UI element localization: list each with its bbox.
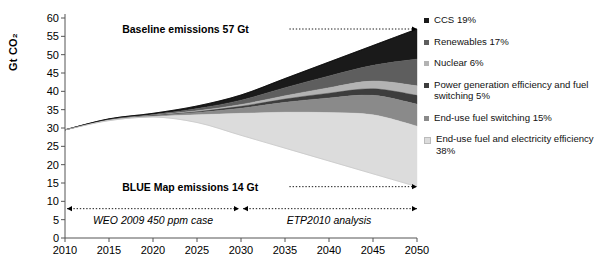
legend-label: End-use fuel switching 15% (434, 112, 552, 124)
y-tick-50: 50 (25, 49, 59, 60)
legend-swatch-icon (424, 137, 431, 144)
y-tick-45: 45 (25, 68, 59, 79)
y-tick-35: 35 (25, 104, 59, 115)
weo-period-label: WEO 2009 450 ppm case (93, 214, 213, 226)
legend-item-end-use-fuel-switching[interactable]: End-use fuel switching 15% (424, 112, 600, 124)
legend-item-end-use-efficiency[interactable]: End-use fuel and electricity efficiency … (424, 133, 600, 156)
y-tick-25: 25 (25, 141, 59, 152)
legend-label: CCS 19% (434, 14, 476, 26)
x-tick-2045: 2045 (351, 244, 395, 256)
baseline-annotation-arrow (289, 26, 417, 31)
y-tick-40: 40 (25, 86, 59, 97)
bluemap-annotation: BLUE Map emissions 14 Gt (122, 181, 258, 193)
y-axis-title: Gt CO₂ (7, 17, 19, 87)
x-tick-2035: 2035 (263, 244, 307, 256)
y-tick-60: 60 (25, 13, 59, 24)
x-tick-2040: 2040 (307, 244, 351, 256)
legend-item-renewables[interactable]: Renewables 17% (424, 36, 600, 48)
legend-swatch-icon (424, 61, 429, 66)
legend-item-ccs[interactable]: CCS 19% (424, 14, 600, 26)
bluemap-annotation-label: BLUE Map emissions 14 Gt (122, 181, 258, 193)
bluemap-annotation-arrow (289, 184, 417, 189)
x-tick-2025: 2025 (175, 244, 219, 256)
etp-period-arrow (243, 206, 417, 211)
weo-period-arrow (67, 206, 239, 211)
baseline-annotation-label: Baseline emissions 57 Gt (122, 23, 249, 35)
chart-legend: CCS 19%Renewables 17%Nuclear 6%Power gen… (424, 14, 600, 166)
x-tick-2020: 2020 (131, 244, 175, 256)
y-tick-15: 15 (25, 178, 59, 189)
legend-label: Power generation efficiency and fuel swi… (434, 79, 600, 102)
legend-item-nuclear[interactable]: Nuclear 6% (424, 57, 600, 69)
baseline-annotation: Baseline emissions 57 Gt (122, 23, 249, 35)
x-tick-2010: 2010 (43, 244, 87, 256)
x-tick-2030: 2030 (219, 244, 263, 256)
etp-period-label: ETP2010 analysis (287, 214, 372, 226)
legend-swatch-icon (424, 83, 429, 88)
x-tick-2050: 2050 (395, 244, 439, 256)
y-tick-55: 55 (25, 31, 59, 42)
legend-item-power-generation[interactable]: Power generation efficiency and fuel swi… (424, 79, 600, 102)
y-tick-0: 0 (25, 233, 59, 244)
y-tick-5: 5 (25, 214, 59, 225)
legend-label: Renewables 17% (434, 36, 509, 48)
y-tick-10: 10 (25, 196, 59, 207)
wedge-end-use-fuel-and-electricity-efficiency (65, 112, 417, 186)
y-tick-30: 30 (25, 123, 59, 134)
wedge-bands (65, 29, 417, 187)
emissions-wedge-chart: Gt CO₂ 605550454035302520151050 20102015… (0, 0, 600, 274)
legend-label: End-use fuel and electricity efficiency … (436, 133, 600, 156)
x-tick-2015: 2015 (87, 244, 131, 256)
legend-swatch-icon (424, 40, 429, 45)
y-tick-20: 20 (25, 159, 59, 170)
legend-label: Nuclear 6% (434, 57, 484, 69)
legend-swatch-icon (424, 18, 429, 23)
legend-swatch-icon (424, 116, 429, 121)
